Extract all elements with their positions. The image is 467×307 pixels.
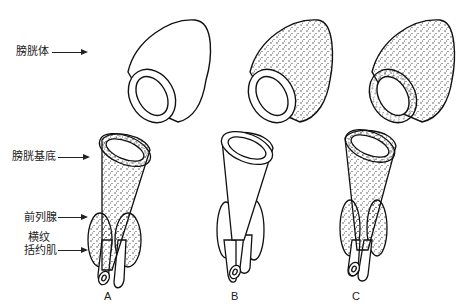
bladder-base-b (217, 125, 278, 282)
column-label-a: A (104, 290, 111, 302)
arrow-bladder-body (52, 52, 86, 53)
bladder-base-c (340, 123, 399, 281)
label-sphincter-line2: 括约肌 (24, 244, 57, 257)
bladder-base-a (88, 127, 155, 288)
label-bladder-body: 膀胱体 (16, 45, 49, 58)
arrow-sphincter (58, 250, 86, 251)
anatomy-diagram (0, 0, 467, 307)
label-sphincter-line1: 横纹 (28, 231, 50, 244)
arrow-prostate (58, 217, 86, 218)
column-label-c: C (352, 290, 360, 302)
bladder-body-a (119, 20, 211, 131)
arrow-bladder-base (58, 157, 88, 158)
column-label-b: B (231, 290, 238, 302)
bladder-body-b (239, 20, 333, 131)
label-prostate: 前列腺 (24, 211, 57, 224)
label-bladder-base: 膀胱基底 (12, 150, 56, 163)
bladder-body-c (360, 20, 455, 131)
